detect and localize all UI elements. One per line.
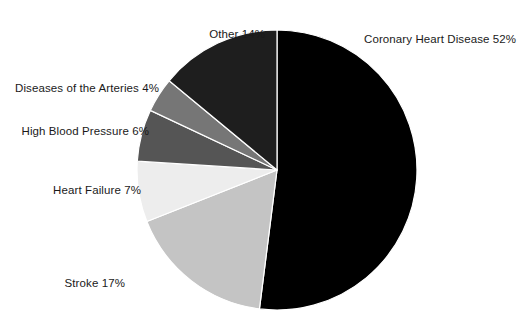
pie-slice-group [137,30,417,310]
pie-slice-coronary-heart-disease [259,30,417,310]
pie-label-stroke: Stroke 17% [65,277,125,290]
pie-label-diseases-of-the-arteries: Diseases of the Arteries 4% [15,82,159,95]
pie-label-coronary-heart-disease: Coronary Heart Disease 52% [364,33,516,46]
pie-label-other: Other 14% [209,28,265,41]
pie-chart: Coronary Heart Disease 52% Stroke 17% He… [0,0,521,327]
pie-label-high-blood-pressure: High Blood Pressure 6% [22,125,150,138]
pie-label-heart-failure: Heart Failure 7% [53,184,141,197]
